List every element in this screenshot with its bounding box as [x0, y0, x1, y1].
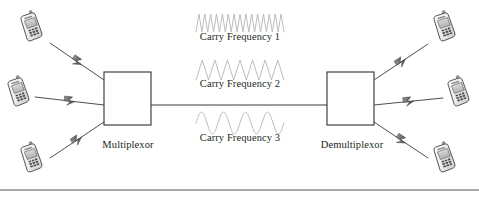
waveform-carry-frequency-1 — [196, 14, 284, 32]
waveform-carry-frequency-3 — [196, 112, 284, 134]
phone-right-middle[interactable] — [446, 74, 470, 106]
lightning-bolt-icon — [70, 55, 84, 69]
link-left-top — [50, 43, 104, 80]
lightning-bolt-icon — [394, 133, 408, 146]
phone-left-top[interactable] — [19, 9, 43, 41]
lightning-bolt-icon — [403, 97, 415, 107]
lightning-bolt-icon — [70, 133, 84, 146]
phone-right-top[interactable] — [432, 9, 456, 41]
diagram-canvas: Carry Frequency 1 Carry Frequency 2 Carr… — [0, 0, 479, 198]
phone-left-middle[interactable] — [6, 74, 30, 106]
link-left-bottom — [50, 122, 104, 158]
link-right-top — [374, 44, 428, 80]
carrier-label-1: Carry Frequency 1 — [200, 31, 280, 42]
carrier-label-3: Carry Frequency 3 — [200, 132, 280, 143]
link-right-middle — [374, 97, 443, 107]
phone-right-bottom[interactable] — [432, 140, 456, 172]
node-box-multiplexor[interactable] — [104, 72, 151, 125]
lightning-bolt-icon — [394, 55, 408, 68]
node-label-demultiplexor: Demultiplexor — [321, 139, 384, 150]
waveform-carry-frequency-2 — [196, 60, 284, 80]
link-left-middle — [35, 96, 104, 106]
phone-left-bottom[interactable] — [19, 140, 43, 172]
node-label-multiplexor: Multiplexor — [102, 139, 153, 150]
diagram-vector-layer — [0, 0, 479, 198]
carrier-label-2: Carry Frequency 2 — [200, 78, 280, 89]
node-box-demultiplexor[interactable] — [327, 72, 374, 125]
